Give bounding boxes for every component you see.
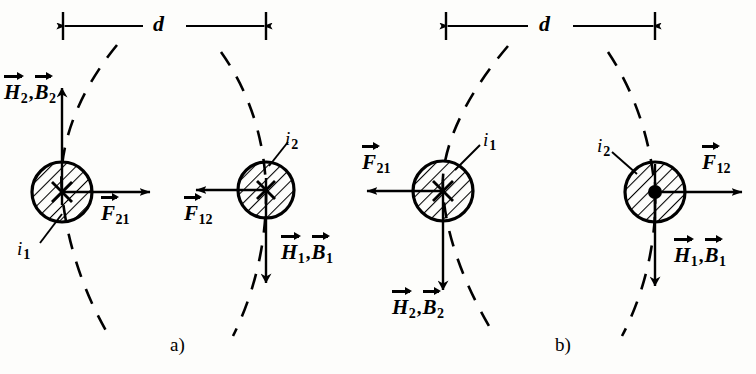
force-label-a-12: F12 xyxy=(184,203,213,227)
force-sub: 12 xyxy=(198,212,213,227)
label-comma: , xyxy=(698,245,705,266)
current-label-b-left: i1 xyxy=(483,130,496,153)
distance-label-b: d xyxy=(539,13,550,35)
field-sub-b: 1 xyxy=(326,251,334,266)
force-symbol: F xyxy=(702,152,716,173)
field-symbol-b: B xyxy=(35,82,49,103)
current-sub: 1 xyxy=(488,138,496,153)
field-symbol-b: B xyxy=(705,245,719,266)
label-comma: , xyxy=(305,242,312,263)
field-sub-b: 2 xyxy=(437,306,445,321)
field-label-a-right: H1,B1 xyxy=(281,242,333,266)
current-label-b-right: i2 xyxy=(597,136,610,159)
force-symbol: F xyxy=(101,203,115,224)
force-label-a-21: F21 xyxy=(101,203,130,227)
field-symbol-h: H xyxy=(4,82,20,103)
field-line-arcs-b xyxy=(443,46,655,336)
field-sub-h: 1 xyxy=(690,254,698,269)
current-label-a-right: i2 xyxy=(285,129,298,152)
field-symbol-b: B xyxy=(423,297,437,318)
force-symbol: F xyxy=(362,152,376,173)
distance-label-a: d xyxy=(153,13,164,35)
current-sub: 2 xyxy=(290,137,298,152)
force-sub: 21 xyxy=(115,212,130,227)
physics-figure: d H2,B2 i1 F21 F12 i2 H1,B1 a) d F21 i1 … xyxy=(0,0,756,374)
field-symbol-h: H xyxy=(392,297,408,318)
field-sub-b: 2 xyxy=(49,91,57,106)
panel-b xyxy=(367,12,742,336)
field-label-a-left: H2,B2 xyxy=(4,82,56,106)
dimension-d-b xyxy=(446,12,655,40)
current-sub: 2 xyxy=(602,144,610,159)
current-label-a-left: i1 xyxy=(17,239,30,262)
figure-canvas xyxy=(0,0,756,374)
field-symbol-h: H xyxy=(281,242,297,263)
panel-caption-b: b) xyxy=(555,335,571,354)
field-sub-h: 2 xyxy=(20,91,28,106)
field-symbol-h: H xyxy=(674,245,690,266)
field-symbol-b: B xyxy=(312,242,326,263)
label-comma: , xyxy=(416,297,423,318)
field-label-b-left: H2,B2 xyxy=(392,297,444,321)
current-leader-b-left xyxy=(455,145,480,170)
current-sub: 1 xyxy=(22,247,30,262)
field-sub-b: 1 xyxy=(719,254,727,269)
field-label-b-right: H1,B1 xyxy=(674,245,726,269)
label-comma: , xyxy=(28,82,35,103)
force-label-b-12: F12 xyxy=(702,152,731,176)
field-sub-h: 2 xyxy=(408,306,416,321)
current-leader-b-right xyxy=(612,152,637,174)
force-symbol: F xyxy=(184,203,198,224)
field-sub-h: 1 xyxy=(297,251,305,266)
panel-caption-a: a) xyxy=(170,335,185,354)
force-sub: 12 xyxy=(716,161,731,176)
force-label-b-21: F21 xyxy=(362,152,391,176)
panel-a xyxy=(32,12,294,336)
force-sub: 21 xyxy=(376,161,391,176)
dimension-d-a xyxy=(63,12,266,40)
